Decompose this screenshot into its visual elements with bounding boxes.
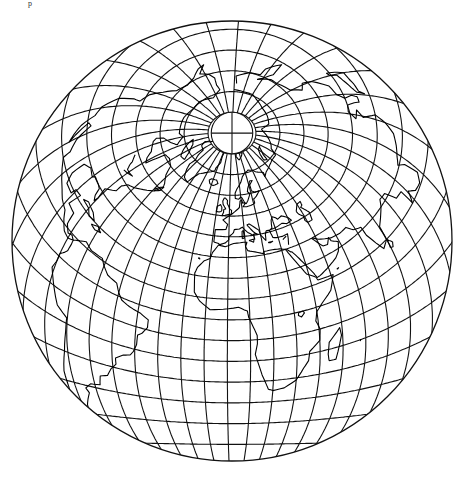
coastline-cyprus (283, 237, 286, 240)
coastline-madagascar (328, 328, 341, 361)
coastline-caspian (296, 201, 312, 222)
coastline-sicily (249, 239, 254, 242)
map-container: p (0, 0, 464, 477)
coastline-arabia (286, 238, 338, 278)
coastline-north-america (62, 65, 220, 240)
coastline-africa (194, 242, 333, 390)
coastline-iceland (209, 179, 218, 186)
coastline-crete (268, 241, 273, 243)
world-map (0, 0, 464, 477)
coastline-mascarene (360, 340, 361, 341)
coastline-canaries (198, 258, 200, 259)
coastline-victoria (298, 311, 304, 317)
coastline-socotra (337, 268, 339, 269)
coastline-south-america (52, 240, 148, 410)
coastline-great-lakes (124, 155, 135, 176)
corner-mark: p (28, 0, 32, 8)
coastline-hispaniola (91, 224, 100, 233)
coastline-iberia-europe (214, 90, 276, 243)
coastline-sri-lanka (387, 240, 393, 248)
coastline-mediterranean-north (214, 216, 292, 245)
coastline-persian-india (236, 65, 420, 249)
